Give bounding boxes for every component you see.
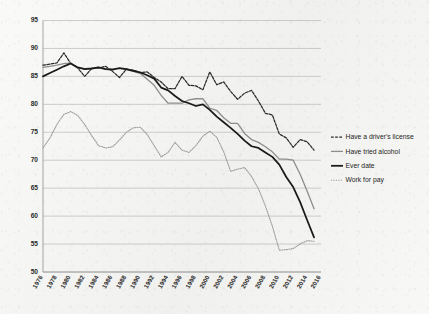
x-tick-label: 1998	[184, 274, 197, 290]
y-tick-label: 70	[31, 156, 39, 163]
x-axis: 1976197819801982198419861988199019921994…	[31, 272, 322, 289]
x-tick-label: 1986	[100, 274, 113, 290]
x-tick-label: 1988	[114, 274, 127, 290]
series-line	[43, 63, 314, 209]
x-tick-label: 1982	[73, 274, 86, 290]
x-tick-label: 1980	[59, 274, 72, 290]
x-tick-label: 1990	[128, 274, 141, 290]
series-line	[43, 53, 314, 150]
x-tick-label: 1996	[170, 274, 183, 290]
legend-label: Work for pay	[346, 176, 385, 184]
chart-canvas: 50556065707580859095 1976197819801982198…	[0, 0, 429, 314]
x-tick-label: 2004	[226, 274, 239, 290]
chart-legend: Have a driver's licenseHave tried alcoho…	[331, 133, 414, 184]
x-tick-label: 2008	[253, 274, 266, 290]
gridlines	[43, 21, 321, 273]
x-tick-label: 1992	[142, 274, 155, 290]
y-tick-label: 55	[31, 240, 39, 247]
x-tick-label: 1984	[87, 274, 100, 290]
x-tick-label: 2002	[212, 274, 225, 290]
y-tick-label: 75	[31, 128, 39, 135]
y-tick-label: 95	[31, 16, 39, 23]
y-axis: 50556065707580859095	[31, 16, 43, 275]
x-tick-label: 2012	[281, 274, 294, 290]
y-tick-label: 65	[31, 184, 39, 191]
x-tick-label: 2016	[309, 274, 322, 290]
x-tick-label: 2014	[295, 274, 308, 290]
data-series	[43, 53, 314, 250]
x-tick-label: 2010	[267, 274, 280, 290]
x-tick-label: 1976	[31, 274, 44, 290]
legend-label: Have tried alcohol	[346, 148, 401, 155]
legend-label: Ever date	[346, 162, 375, 169]
x-tick-label: 2006	[239, 274, 252, 290]
x-tick-label: 1994	[156, 274, 169, 290]
y-tick-label: 90	[31, 44, 39, 51]
y-tick-label: 80	[31, 100, 39, 107]
line-chart-figure: 50556065707580859095 1976197819801982198…	[0, 0, 429, 314]
x-tick-label: 2000	[198, 274, 211, 290]
y-tick-label: 60	[31, 212, 39, 219]
series-line	[43, 64, 314, 238]
x-tick-label: 1978	[45, 274, 58, 290]
legend-label: Have a driver's license	[346, 133, 414, 140]
y-tick-label: 85	[31, 72, 39, 79]
